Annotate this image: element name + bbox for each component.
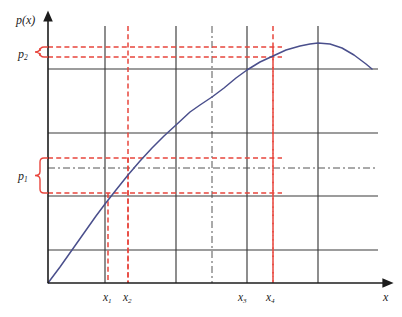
x-axis-label: x (383, 291, 388, 303)
p1-brace (35, 158, 48, 193)
tick-label-subscript: 1 (108, 297, 112, 305)
band-label-p2: p2 (18, 48, 28, 62)
band-label-subscript: 1 (24, 175, 28, 184)
tick-label-subscript: 3 (243, 297, 247, 305)
tick-label-x4: x4 (266, 292, 275, 305)
plot-svg (0, 0, 402, 317)
gridlines-layer (48, 26, 378, 283)
tick-label-x2: x2 (123, 292, 132, 305)
tick-label-subscript: 4 (271, 297, 275, 305)
band-label-subscript: 2 (24, 53, 28, 62)
figure-canvas: p(x) x x1x2x3x4 p2p1 (0, 0, 402, 317)
tick-label-x1: x1 (103, 292, 112, 305)
brace-layer (35, 47, 48, 193)
curve-p(x) (48, 43, 372, 283)
tick-label-subscript: 2 (128, 297, 132, 305)
p2-brace (35, 47, 48, 57)
y-axis-label: p(x) (16, 14, 35, 26)
band-label-p1: p1 (18, 170, 28, 184)
tick-label-x3: x3 (238, 292, 247, 305)
axes-layer (48, 20, 384, 283)
curve-layer (48, 43, 372, 283)
